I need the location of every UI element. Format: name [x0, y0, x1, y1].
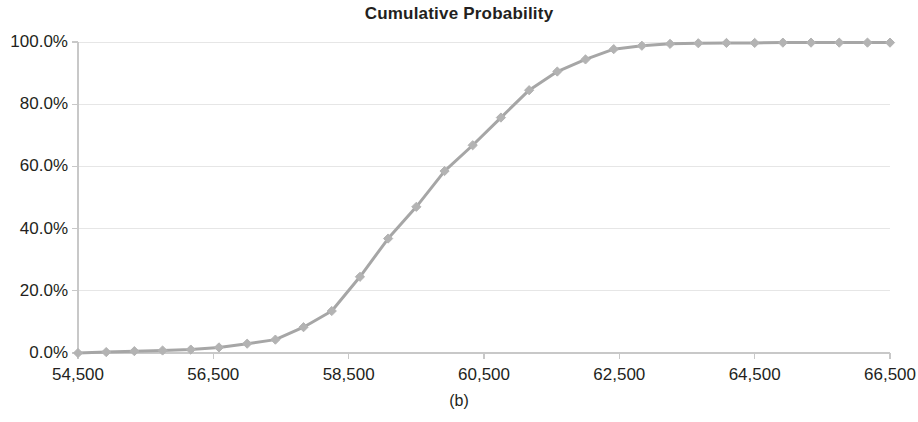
gridlines	[78, 42, 890, 353]
plot-area	[78, 42, 890, 353]
x-axis-tick-label: 66,500	[864, 366, 916, 383]
x-axis-tick-label: 60,500	[458, 366, 510, 383]
plot-svg	[78, 42, 890, 353]
axis-lines	[78, 42, 890, 353]
x-axis-tick-label: 54,500	[52, 366, 104, 383]
data-series-cumulative-probability	[73, 38, 894, 358]
tick-marks	[72, 42, 890, 359]
x-axis-tick-label: 64,500	[729, 366, 781, 383]
figure-caption: (b)	[0, 392, 918, 410]
x-axis-tick-label: 56,500	[187, 366, 239, 383]
x-axis-tick-label: 58,500	[323, 366, 375, 383]
cumulative-probability-chart: Cumulative Probability 0.0%20.0%40.0%60.…	[0, 0, 918, 422]
x-axis-tick-label: 62,500	[593, 366, 645, 383]
